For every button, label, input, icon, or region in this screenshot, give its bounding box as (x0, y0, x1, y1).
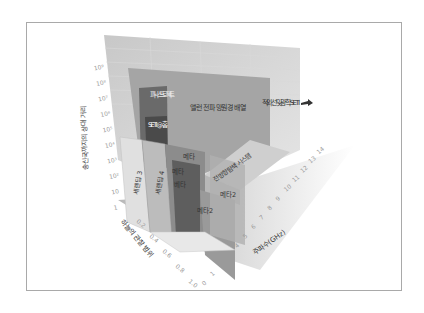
label-meta2-a: 메타2 (220, 190, 236, 199)
z-tick: 14 (315, 145, 325, 155)
x-tick: 0.8 (174, 262, 186, 274)
y-tick: 10⁴ (104, 140, 116, 149)
y-tick: 10⁶ (100, 109, 112, 118)
label-allen: 앨런 전파 망원경 배열 (190, 103, 246, 112)
y-tick: 10⁹ (93, 63, 105, 72)
x-tick: 1.0 (187, 277, 199, 289)
y-tick: 10⁷ (98, 94, 110, 103)
label-meta2-b: 메타2 (197, 206, 213, 215)
label-seti-home: SETI @ 홈 (148, 120, 168, 129)
x-tick: 0.6 (161, 247, 173, 259)
y-axis-label: 송신국까지의 상대 거리 (79, 106, 90, 171)
label-optical: 적외선 및 광학 SETI (262, 98, 300, 107)
y-tick: 10³ (106, 156, 118, 165)
z-tick: 0 (200, 279, 208, 287)
seti-search-space-diagram: 피닉스 프로젝트 SETI @ 홈 앨런 전파 망원경 배열 적외선 및 광학 … (0, 0, 424, 313)
label-meta-b: 메타 (172, 167, 184, 176)
y-tick: 10⁵ (102, 125, 114, 134)
y-tick: 1 (113, 203, 118, 211)
y-tick: 10² (109, 171, 121, 180)
label-beta: 베타 (174, 180, 186, 189)
label-phoenix-1: 피닉스 프로젝트 (150, 90, 175, 99)
z-tick: 1 (208, 269, 216, 277)
y-tick: 10⁸ (95, 78, 107, 87)
y-tick: 10 (111, 187, 120, 195)
label-meta-a: 메타 (183, 152, 195, 161)
arrow-icon (301, 99, 313, 106)
